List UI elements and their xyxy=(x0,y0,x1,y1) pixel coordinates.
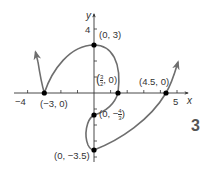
x-tick-label-neg4: −4 xyxy=(15,97,26,107)
y-tick-label-4: 4 xyxy=(85,25,90,35)
label-point-0-3: (0, 3) xyxy=(99,30,121,40)
label-point-neg3-0: (−3, 0) xyxy=(40,99,68,109)
label-point-3half-0: (32, 0) xyxy=(96,73,117,87)
y-axis xyxy=(94,14,97,162)
point-0-neg4third xyxy=(91,112,96,117)
x-axis xyxy=(14,90,188,93)
graph-figure: y x 4 −4 5 (0, 3) (−3, 0) (4.5, 0) (32, … xyxy=(0,0,212,176)
x-tick-label-5: 5 xyxy=(173,97,178,107)
x-axis-label: x xyxy=(187,96,192,106)
graph-canvas xyxy=(0,0,212,176)
point-3half-0 xyxy=(115,90,120,95)
y-axis-label: y xyxy=(86,11,91,21)
point-4point5-0 xyxy=(163,90,168,95)
point-0-3 xyxy=(91,42,96,47)
label-point-0-neg3point5: (0, −3.5) xyxy=(54,151,90,161)
point-0-neg3point5 xyxy=(91,147,96,152)
label-point-4point5-0: (4.5, 0) xyxy=(139,77,169,87)
page-number: 3 xyxy=(191,117,200,135)
label-point-0-neg4third: (0, −43) xyxy=(99,108,125,121)
point-neg3-0 xyxy=(42,90,47,95)
